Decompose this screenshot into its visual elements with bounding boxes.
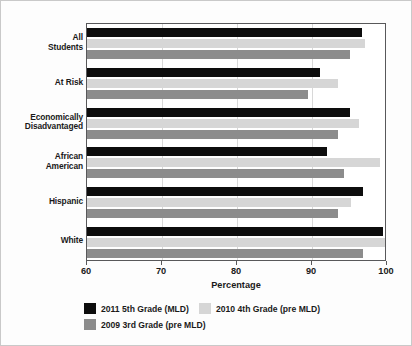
y-axis-label: White: [7, 236, 83, 246]
bar: [87, 68, 320, 77]
bar: [87, 90, 308, 99]
legend-label: 2011 5th Grade (MLD): [101, 304, 189, 314]
bar: [87, 50, 350, 59]
y-axis-label-line: Disadvantaged: [7, 122, 83, 132]
bar: [87, 79, 338, 88]
x-tick-label-100: 100: [366, 266, 406, 276]
plot-frame: [86, 23, 386, 261]
legend-item[interactable]: 2009 3rd Grade (pre MLD): [84, 318, 206, 331]
gridline-80: [237, 24, 238, 260]
x-tick-mark-80: [236, 261, 237, 265]
bar: [87, 108, 350, 117]
legend-item[interactable]: 2011 5th Grade (MLD): [84, 302, 189, 315]
x-tick-mark-90: [311, 261, 312, 265]
x-tick-label-60: 60: [66, 266, 106, 276]
y-axis-label-line: At Risk: [7, 78, 83, 88]
legend-swatch-icon: [84, 319, 96, 330]
legend-swatch-icon: [84, 303, 96, 314]
bar: [87, 158, 380, 167]
y-axis-label: Hispanic: [7, 197, 83, 207]
legend-label: 2009 3rd Grade (pre MLD): [101, 320, 206, 330]
y-axis-label: AfricanAmerican: [7, 152, 83, 171]
bar: [87, 147, 327, 156]
x-tick-mark-70: [161, 261, 162, 265]
x-tick-label-90: 90: [291, 266, 331, 276]
legend-label: 2010 4th Grade (pre MLD): [216, 304, 320, 314]
bar-group: [87, 147, 385, 178]
gridline-70: [162, 24, 163, 260]
bar: [87, 227, 383, 236]
bar-group: [87, 108, 385, 139]
plot-inner: [87, 24, 385, 260]
bar: [87, 39, 365, 48]
bar: [87, 249, 363, 258]
bar-group: [87, 187, 385, 218]
legend-item[interactable]: 2010 4th Grade (pre MLD): [199, 302, 320, 315]
x-tick-label-80: 80: [216, 266, 256, 276]
gridline-90: [312, 24, 313, 260]
y-axis-label-line: White: [7, 236, 83, 246]
y-axis-label: EconomicallyDisadvantaged: [7, 113, 83, 132]
x-tick-label-70: 70: [141, 266, 181, 276]
bar: [87, 209, 338, 218]
y-axis-label-line: Hispanic: [7, 197, 83, 207]
chart-plot-region: AllStudentsAt RiskEconomicallyDisadvanta…: [1, 1, 412, 301]
bar: [87, 119, 359, 128]
y-axis-label-line: Students: [7, 43, 83, 53]
x-axis-title: Percentage: [86, 280, 386, 290]
x-tick-mark-100: [386, 261, 387, 265]
y-axis-label: At Risk: [7, 78, 83, 88]
bar: [87, 28, 362, 37]
legend-swatch-icon: [199, 303, 211, 314]
bar: [87, 238, 385, 247]
bar: [87, 130, 338, 139]
chart-legend: 2011 5th Grade (MLD)2010 4th Grade (pre …: [81, 301, 381, 337]
y-axis-label: AllStudents: [7, 33, 83, 52]
x-tick-mark-60: [86, 261, 87, 265]
bar: [87, 187, 363, 196]
bar: [87, 169, 344, 178]
bar: [87, 198, 351, 207]
bar-group: [87, 68, 385, 99]
chart-figure: AllStudentsAt RiskEconomicallyDisadvanta…: [0, 0, 412, 346]
y-axis-category-labels: AllStudentsAt RiskEconomicallyDisadvanta…: [7, 23, 83, 261]
bar-group: [87, 28, 385, 59]
y-axis-label-line: American: [7, 162, 83, 172]
bar-group: [87, 227, 385, 258]
